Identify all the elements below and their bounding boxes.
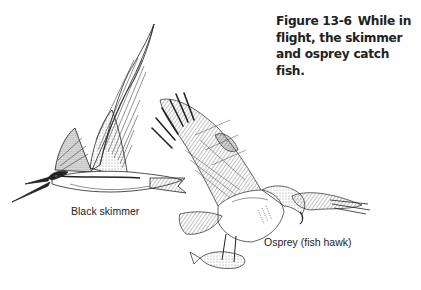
figure-number: Figure 13-6 xyxy=(276,14,352,28)
caption-line-1: Figure 13-6While in xyxy=(276,13,421,30)
osprey-label: Osprey (fish hawk) xyxy=(264,236,352,248)
black-skimmer-label: Black skimmer xyxy=(71,205,139,217)
figure-caption: Figure 13-6While in flight, the skimmer … xyxy=(276,13,421,79)
caption-line-2: flight, the skimmer xyxy=(276,30,421,47)
caption-line-3: and osprey catch fish. xyxy=(276,46,421,79)
black-skimmer-drawing xyxy=(12,24,186,202)
figure-page: Figure 13-6While in flight, the skimmer … xyxy=(0,0,421,290)
